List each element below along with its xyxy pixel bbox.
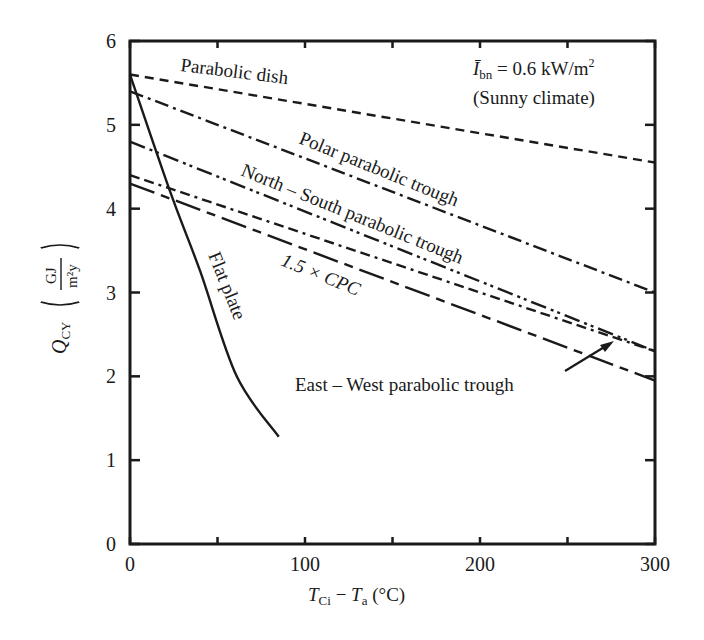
ew-leader-line (565, 346, 606, 371)
x-tick-label: 0 (125, 553, 135, 575)
irradiance-annotation: Ībn = 0.6 kW/m2 (Sunny climate) (472, 56, 595, 109)
x-tick-label: 200 (465, 553, 495, 575)
y-tick-label: 4 (106, 198, 116, 220)
y-tick-label: 5 (106, 114, 116, 136)
series-line-east-west-parabolic-trough (130, 184, 655, 381)
annotation-sub: bn (479, 67, 493, 82)
plot-frame (130, 41, 655, 544)
svg-text:Ībn = 0.6 kW/m2: Ībn = 0.6 kW/m2 (472, 56, 595, 82)
y-tick-label: 6 (106, 30, 116, 52)
svg-text:QCY: QCY (48, 321, 73, 354)
label-flat-plate: Flat plate (204, 249, 250, 323)
y-axis-ticks: 0123456 (106, 30, 655, 555)
annotation-value: = 0.6 kW/m (492, 58, 588, 79)
y-tick-label: 1 (106, 449, 116, 471)
ew-leader-arrowhead (600, 341, 614, 352)
label-parabolic-dish: Parabolic dish (180, 54, 290, 88)
label-north-south-parabolic-trough: North – South parabolic trough (239, 159, 468, 268)
annotation-climate: (Sunny climate) (473, 87, 595, 109)
y-tick-label: 3 (106, 282, 116, 304)
annotation-sup: 2 (589, 56, 595, 70)
y-tick-label: 0 (106, 533, 116, 555)
svg-text:m²y: m²y (64, 264, 80, 288)
x-axis-label: TCi − Ta (°C) (308, 584, 405, 608)
x-tick-label: 100 (290, 553, 320, 575)
chart: 0123456 0100200300 Parabolic dish Polar … (0, 0, 704, 640)
svg-text:GJ: GJ (43, 267, 59, 284)
y-axis-label: QCY GJ m²y (41, 245, 80, 354)
label-cpc: 1.5 × CPC (279, 249, 364, 300)
label-east-west-parabolic-trough: East – West parabolic trough (295, 374, 514, 395)
x-tick-label: 300 (640, 553, 670, 575)
y-tick-label: 2 (106, 365, 116, 387)
